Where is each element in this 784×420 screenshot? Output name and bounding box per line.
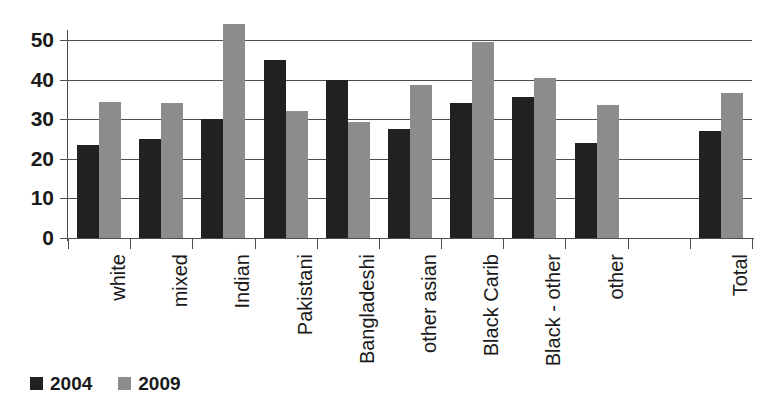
- y-axis-tick-label: 40: [0, 69, 54, 90]
- bar-group: [192, 40, 254, 238]
- x-axis-label: Indian: [232, 254, 252, 309]
- x-axis-tick: [68, 238, 69, 249]
- bar-2004: [201, 119, 223, 238]
- bar-2004: [388, 129, 410, 238]
- bar-2009: [721, 93, 743, 238]
- x-axis-label: Black - other: [543, 254, 563, 366]
- legend-swatch-icon: [30, 377, 43, 390]
- bar-group: [317, 40, 379, 238]
- bar-group: [565, 40, 627, 238]
- x-axis-tick: [379, 238, 380, 249]
- x-axis-tick: [752, 238, 753, 249]
- x-axis-line: [62, 238, 754, 239]
- x-axis-tick: [690, 238, 691, 249]
- legend-label: 2004: [50, 374, 92, 393]
- plot-area: [68, 40, 752, 238]
- bar-2009: [534, 78, 556, 238]
- y-axis-tick-label: 20: [0, 148, 54, 169]
- x-axis-tick: [192, 238, 193, 249]
- bar-group: [690, 40, 752, 238]
- y-axis-tick: [60, 238, 68, 239]
- x-axis-label: mixed: [170, 254, 190, 307]
- bar-group: [379, 40, 441, 238]
- bar-2009: [99, 102, 121, 238]
- x-axis-tick: [130, 238, 131, 249]
- bar-2004: [264, 60, 286, 238]
- chart-legend: 20042009: [30, 374, 181, 393]
- y-axis-tick: [60, 119, 68, 120]
- bar-2009: [223, 24, 245, 238]
- bar-group: [628, 40, 690, 238]
- bar-2004: [512, 97, 534, 238]
- bar-2004: [77, 145, 99, 238]
- bar-group: [255, 40, 317, 238]
- y-axis-tick: [60, 40, 68, 41]
- legend-label: 2009: [138, 374, 180, 393]
- y-axis-tick-label: 10: [0, 187, 54, 208]
- x-axis-tick: [255, 238, 256, 249]
- y-axis-tick: [60, 159, 68, 160]
- bar-2009: [597, 105, 619, 238]
- y-axis-tick-label: 0: [0, 227, 54, 248]
- y-axis-tick-label: 30: [0, 108, 54, 129]
- bar-2004: [450, 103, 472, 238]
- legend-item[interactable]: 2009: [118, 374, 180, 393]
- bar-2009: [286, 111, 308, 238]
- x-axis-label: Total: [730, 254, 750, 296]
- x-axis-label: other: [606, 254, 626, 300]
- bar-2009: [472, 42, 494, 238]
- bar-group: [503, 40, 565, 238]
- bar-2004: [139, 139, 161, 238]
- x-axis-tick: [441, 238, 442, 249]
- x-axis-label: Bangladeshi: [357, 254, 377, 364]
- bar-2004: [575, 143, 597, 238]
- x-axis-label: Pakistani: [295, 254, 315, 335]
- bar-2004: [326, 80, 348, 238]
- legend-item[interactable]: 2004: [30, 374, 92, 393]
- bar-2004: [699, 131, 721, 238]
- bar-2009: [348, 122, 370, 238]
- bar-2009: [161, 103, 183, 238]
- bar-2009: [410, 85, 432, 238]
- x-axis-tick: [503, 238, 504, 249]
- legend-swatch-icon: [118, 377, 131, 390]
- bar-group: [130, 40, 192, 238]
- bar-group: [68, 40, 130, 238]
- y-axis-tick: [60, 80, 68, 81]
- x-axis-label: white: [108, 254, 128, 301]
- x-axis-tick: [565, 238, 566, 249]
- bar-chart: 01020304050 whitemixedIndianPakistaniBan…: [0, 0, 784, 420]
- y-axis-tick-label: 50: [0, 29, 54, 50]
- x-axis-tick: [628, 238, 629, 249]
- bar-group: [441, 40, 503, 238]
- x-axis-tick: [317, 238, 318, 249]
- x-axis-label: other asian: [419, 254, 439, 353]
- x-axis-labels: whitemixedIndianPakistaniBangladeshiothe…: [0, 250, 784, 360]
- y-axis-tick: [60, 198, 68, 199]
- x-axis-label: Black Carib: [481, 254, 501, 356]
